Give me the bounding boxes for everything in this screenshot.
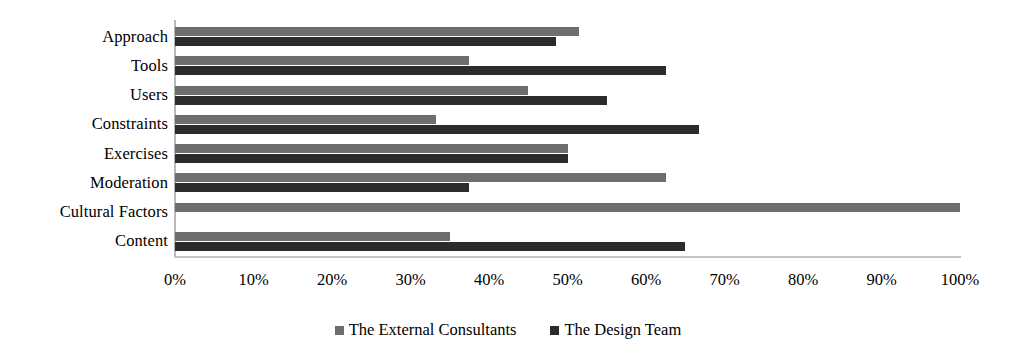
bar-external-consultants bbox=[175, 56, 469, 65]
bar-external-consultants bbox=[175, 27, 579, 36]
category-label: Constraints bbox=[0, 116, 168, 133]
bar-external-consultants bbox=[175, 144, 568, 153]
legend-swatch-icon-design bbox=[550, 326, 559, 335]
bar-group bbox=[175, 139, 960, 168]
bar-design-team bbox=[175, 242, 685, 251]
x-axis-tick-label: 30% bbox=[395, 272, 425, 289]
bar-group bbox=[175, 227, 960, 256]
legend-item-external-consultants: The External Consultants bbox=[335, 322, 517, 339]
bar-chart: ApproachToolsUsersConstraintsExercisesMo… bbox=[0, 0, 1016, 363]
x-axis-tick-label: 40% bbox=[474, 272, 504, 289]
bar-design-team bbox=[175, 66, 666, 75]
bar-design-team bbox=[175, 125, 699, 134]
legend-label-external: The External Consultants bbox=[349, 322, 517, 339]
x-axis-tick-label: 50% bbox=[552, 272, 582, 289]
x-axis-tick-label: 90% bbox=[866, 272, 896, 289]
plot-area bbox=[175, 22, 960, 256]
bar-design-team bbox=[175, 37, 556, 46]
chart-legend: The External Consultants The Design Team bbox=[0, 322, 1016, 339]
category-label: Users bbox=[0, 87, 168, 104]
legend-swatch-icon-external bbox=[335, 326, 344, 335]
x-axis-tick-label: 100% bbox=[941, 272, 980, 289]
bar-design-team bbox=[175, 183, 469, 192]
category-label: Content bbox=[0, 233, 168, 250]
bar-external-consultants bbox=[175, 115, 436, 124]
bar-external-consultants bbox=[175, 86, 528, 95]
category-label: Tools bbox=[0, 58, 168, 75]
x-axis-tick-label: 70% bbox=[709, 272, 739, 289]
legend-label-design: The Design Team bbox=[564, 322, 681, 339]
x-axis-line bbox=[174, 256, 961, 258]
bar-group bbox=[175, 22, 960, 51]
category-label: Exercises bbox=[0, 146, 168, 163]
x-axis-tick-label: 0% bbox=[164, 272, 186, 289]
category-label: Moderation bbox=[0, 175, 168, 192]
category-axis-labels: ApproachToolsUsersConstraintsExercisesMo… bbox=[0, 22, 168, 256]
bar-external-consultants bbox=[175, 173, 666, 182]
bar-group bbox=[175, 51, 960, 80]
bar-group bbox=[175, 110, 960, 139]
category-label: Cultural Factors bbox=[0, 204, 168, 221]
bar-external-consultants bbox=[175, 232, 450, 241]
bar-design-team bbox=[175, 96, 607, 105]
bar-group bbox=[175, 168, 960, 197]
bar-group bbox=[175, 198, 960, 227]
category-label: Approach bbox=[0, 29, 168, 46]
x-axis-tick-label: 80% bbox=[788, 272, 818, 289]
x-axis-tick-label: 20% bbox=[317, 272, 347, 289]
bar-group bbox=[175, 81, 960, 110]
x-axis-tick-label: 60% bbox=[631, 272, 661, 289]
x-axis-tick-label: 10% bbox=[238, 272, 268, 289]
bar-design-team bbox=[175, 154, 568, 163]
bar-external-consultants bbox=[175, 203, 960, 212]
legend-item-design-team: The Design Team bbox=[550, 322, 681, 339]
